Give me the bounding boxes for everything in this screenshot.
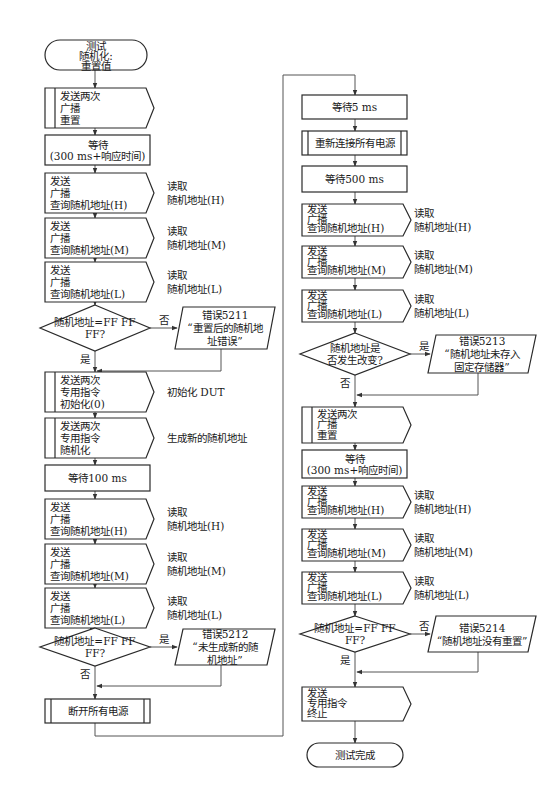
side-note: 读取随机地址(M) <box>414 249 473 275</box>
error-label-line: 址错误” <box>207 335 242 347</box>
process-label: 等待500 ms <box>325 173 384 185</box>
decision-label-line: 随机地址=FF FF <box>314 622 395 634</box>
node-l11: 发送广播查询随机地址(L)读取随机地址(L) <box>45 588 222 628</box>
side-note: 读取随机地址(L) <box>414 293 469 319</box>
send-label-line: 发送 <box>50 501 71 513</box>
branch-label-side: 是 <box>159 633 170 645</box>
branch-label-down: 是 <box>80 353 91 365</box>
side-note-line: 随机地址(M) <box>414 263 473 275</box>
side-note-line: 读取 <box>414 293 435 305</box>
send-label-line: 广播 <box>50 232 71 244</box>
node-r1: 等待5 ms <box>302 95 407 119</box>
side-note-line: 随机地址(H) <box>414 221 471 233</box>
decision-label-line: FF? <box>345 634 366 646</box>
send-label-line: 查询随机地址(L) <box>307 590 382 602</box>
side-note: 读取随机地址(H) <box>167 180 224 206</box>
process-label-line: (300 ms+响应时间) <box>50 150 146 162</box>
node-l7: 发送两次专用指令随机化生成新的随机地址 <box>45 418 248 458</box>
end-label-line: 测试完成 <box>335 749 376 761</box>
connector-line <box>357 373 478 395</box>
decision-label-line: 随机地址=FF FF <box>54 316 135 328</box>
error-label-line: 机地址” <box>207 654 242 666</box>
branch-label-side: 否 <box>419 620 430 632</box>
send-label: 发送两次专用指令初始化(0) <box>60 374 105 410</box>
process-label-line: 等待 <box>88 139 109 151</box>
send-label-line: 专用指令 <box>60 386 101 398</box>
side-note: 读取随机地址(H) <box>414 207 471 233</box>
send-label-line: 广播 <box>60 102 81 114</box>
node-l12: 断开所有电源 <box>45 699 150 723</box>
process-label-line: 等待 <box>345 453 366 465</box>
send-label-line: 重置 <box>60 114 80 126</box>
decision-label-line: FF? <box>85 328 106 340</box>
node-r5: 发送广播查询随机地址(M)读取随机地址(M) <box>302 245 473 278</box>
connectors <box>95 70 478 743</box>
send-label-line: 发送两次 <box>60 90 101 102</box>
node-l9: 发送广播查询随机地址(H)读取随机地址(H) <box>45 499 224 539</box>
side-note-line: 读取 <box>414 249 435 261</box>
side-note-line: 初始化 DUT <box>167 386 225 398</box>
node-r6: 发送广播查询随机地址(L)读取随机地址(L) <box>302 289 469 322</box>
node-r3: 等待500 ms <box>302 166 407 192</box>
send-label-line: 查询随机地址(H) <box>307 222 384 234</box>
side-note: 读取随机地址(H) <box>414 489 471 515</box>
error-label-line: 错误5213 <box>459 335 506 347</box>
side-note-line: 随机地址(M) <box>167 565 226 577</box>
node-d3: 随机地址是否发生改变?错误5213“随机地址未存入固定存储器”是否 <box>300 333 536 389</box>
branch-label-down: 否 <box>80 668 91 680</box>
node-l3: 发送广播查询随机地址(H)读取随机地址(H) <box>45 173 224 213</box>
side-note-line: 读取 <box>167 225 188 237</box>
send-label-line: 广播 <box>50 602 71 614</box>
node-l8: 等待100 ms <box>45 465 150 491</box>
node-r8: 等待(300 ms+响应时间) <box>302 450 407 478</box>
connector-line <box>97 349 221 371</box>
side-note-line: 随机地址(H) <box>167 520 224 532</box>
side-note-line: 随机地址(M) <box>414 546 473 558</box>
send-label-line: 随机化 <box>60 444 91 456</box>
send-label-line: 查询随机地址(H) <box>50 525 127 537</box>
side-note: 读取随机地址(M) <box>167 551 226 577</box>
side-note-line: 读取 <box>414 532 435 544</box>
send-label-line: 查询随机地址(M) <box>50 570 129 582</box>
side-note-line: 读取 <box>167 269 188 281</box>
send-label-line: 发送两次 <box>60 374 101 386</box>
process-label: 等待5 ms <box>332 101 377 113</box>
side-note-line: 随机地址(L) <box>167 609 222 621</box>
node-l6: 发送两次专用指令初始化(0)初始化 DUT <box>45 372 225 412</box>
node-r4: 发送广播查询随机地址(H)读取随机地址(H) <box>302 203 471 236</box>
error-label-line: 错误5212 <box>202 628 249 640</box>
connector-line <box>357 652 478 672</box>
send-label-line: 发送 <box>50 175 71 187</box>
send-label-line: 查询随机地址(M) <box>307 264 386 276</box>
send-label-line: 重置 <box>317 429 337 441</box>
decision-label-line: 否发生改变? <box>327 354 383 366</box>
side-note-line: 随机地址(L) <box>414 307 469 319</box>
side-note: 读取随机地址(M) <box>167 225 226 251</box>
process-label-line: 等待100 ms <box>68 472 127 484</box>
send-label-line: 发送两次 <box>60 420 101 432</box>
branch-label-down: 否 <box>340 377 351 389</box>
send-label-line: 发送 <box>50 590 71 602</box>
side-note-line: 读取 <box>167 595 188 607</box>
decision-label-line: 随机地址=FF FF <box>54 635 135 647</box>
error-label-line: “重置后的随机地 <box>187 322 263 334</box>
end-label: 测试完成 <box>335 749 376 761</box>
error-label-line: “随机地址没有重置” <box>437 635 528 647</box>
node-r12: 发送专用指令终止 <box>302 687 411 721</box>
side-note-line: 生成新的随机地址 <box>167 432 248 444</box>
branch-label-side: 是 <box>419 340 430 352</box>
node-d1: 随机地址=FF FFFF?错误5211“重置后的随机地址错误”否是 <box>40 305 275 365</box>
error-label-line: 固定存储器” <box>454 361 509 373</box>
node-d4: 随机地址=FF FFFF?错误5214“随机地址没有重置”否是 <box>300 616 536 666</box>
side-note: 生成新的随机地址 <box>167 432 248 444</box>
node-l10: 发送广播查询随机地址(M)读取随机地址(M) <box>45 544 226 584</box>
node-r11: 发送广播查询随机地址(L)读取随机地址(L) <box>302 571 469 604</box>
side-note-line: 随机地址(H) <box>414 503 471 515</box>
side-note: 初始化 DUT <box>167 386 225 398</box>
side-note: 读取随机地址(L) <box>414 575 469 601</box>
nodes: 测试随机化:重置值测试完成发送两次广播重置等待(300 ms+响应时间)发送广播… <box>40 40 536 767</box>
node-r7: 发送两次广播重置 <box>302 407 411 443</box>
send-label-line: 发送 <box>50 546 71 558</box>
side-note-line: 读取 <box>414 207 435 219</box>
node-r9: 发送广播查询随机地址(H)读取随机地址(H) <box>302 485 471 518</box>
